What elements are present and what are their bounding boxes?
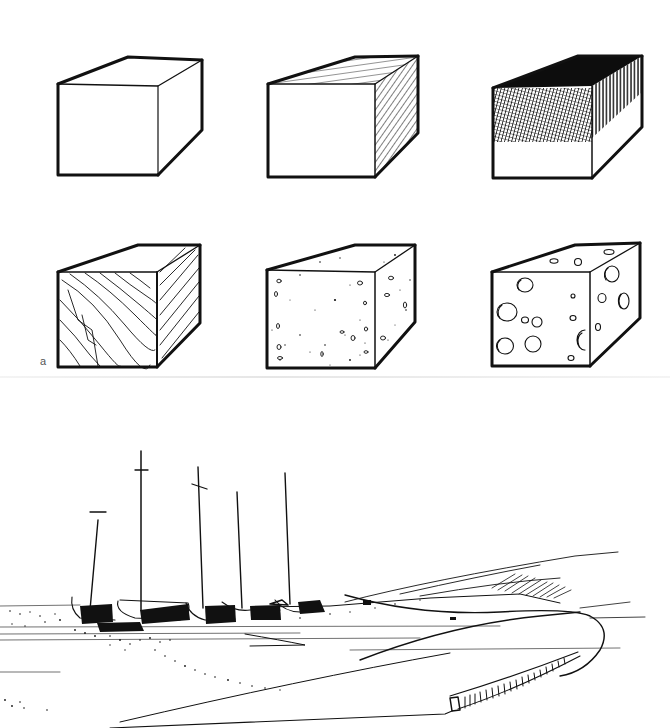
cube-stippled <box>267 245 415 368</box>
texture-study-panel: a <box>0 0 670 380</box>
sailboat-1 <box>72 512 115 624</box>
sailboat-3 <box>186 467 236 624</box>
beach-sailboats-sketch <box>0 380 670 728</box>
figure-label: a <box>40 355 46 367</box>
cube-hatched <box>268 56 418 177</box>
sailboat-5 <box>275 473 325 614</box>
cube-texture-grid <box>0 0 670 380</box>
cube-plain <box>58 57 202 175</box>
beach-sketch-panel <box>0 380 670 728</box>
panel-divider <box>0 376 670 378</box>
jetty <box>110 652 580 728</box>
cube-crosshatched <box>493 56 642 178</box>
cube-holes <box>492 243 640 366</box>
cube-woodgrain <box>58 245 200 369</box>
sailboat-4 <box>222 492 281 620</box>
